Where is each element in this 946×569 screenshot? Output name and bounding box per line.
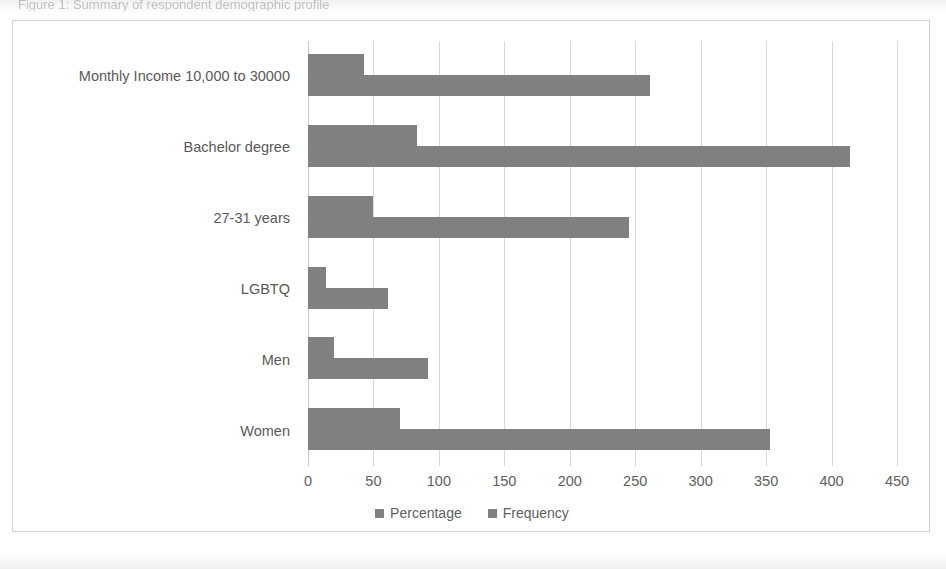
x-axis-tick: 50	[365, 473, 381, 489]
chart-frame: WomenMenLGBTQ27-31 yearsBachelor degreeM…	[12, 20, 930, 532]
y-axis-label: 27-31 years	[13, 183, 298, 254]
bar-percentage[interactable]	[308, 408, 400, 429]
y-axis-label: Women	[13, 395, 298, 466]
chart-legend: PercentageFrequency	[13, 505, 931, 521]
bar-frequency[interactable]	[308, 288, 388, 309]
bar-group	[308, 254, 897, 325]
bar-group	[308, 41, 897, 112]
x-axis-tick: 400	[819, 473, 843, 489]
bar-group	[308, 395, 897, 466]
gridline	[897, 41, 898, 466]
x-axis-tick-labels: 050100150200250300350400450	[308, 473, 897, 497]
x-axis-tick: 250	[623, 473, 647, 489]
bar-percentage[interactable]	[308, 196, 373, 217]
chart-page: Figure 1: Summary of respondent demograp…	[0, 0, 946, 569]
bar-group	[308, 112, 897, 183]
y-axis-labels: WomenMenLGBTQ27-31 yearsBachelor degreeM…	[13, 41, 308, 466]
bar-percentage[interactable]	[308, 337, 334, 358]
bar-frequency[interactable]	[308, 429, 770, 450]
y-axis-label-text: Women	[240, 423, 298, 439]
x-axis-tick: 100	[427, 473, 451, 489]
y-axis-label-text: Men	[262, 352, 298, 368]
y-axis-label-text: Bachelor degree	[184, 139, 298, 155]
x-axis-tick: 200	[558, 473, 582, 489]
y-axis-label-text: 27-31 years	[213, 210, 298, 226]
scan-artifact-bottom	[0, 553, 946, 569]
legend-item[interactable]: Percentage	[375, 505, 462, 521]
y-axis-label-text: Monthly Income 10,000 to 30000	[79, 68, 298, 84]
plot-area	[308, 41, 897, 466]
bar-group	[308, 183, 897, 254]
bar-frequency[interactable]	[308, 146, 850, 167]
bar-percentage[interactable]	[308, 125, 417, 146]
bar-group	[308, 324, 897, 395]
y-axis-label: Monthly Income 10,000 to 30000	[13, 41, 298, 112]
x-axis-tick: 350	[754, 473, 778, 489]
x-axis-tick: 450	[885, 473, 909, 489]
x-axis-tick: 150	[492, 473, 516, 489]
cropped-figure-title: Figure 1: Summary of respondent demograp…	[18, 0, 718, 11]
y-axis-label: LGBTQ	[13, 254, 298, 325]
legend-label: Percentage	[390, 505, 462, 521]
y-axis-label: Men	[13, 324, 298, 395]
bar-frequency[interactable]	[308, 75, 650, 96]
bar-percentage[interactable]	[308, 267, 326, 288]
y-axis-label-text: LGBTQ	[241, 281, 298, 297]
legend-swatch-icon	[488, 509, 497, 518]
bar-frequency[interactable]	[308, 217, 629, 238]
bar-percentage[interactable]	[308, 54, 364, 75]
legend-label: Frequency	[503, 505, 569, 521]
bar-frequency[interactable]	[308, 358, 428, 379]
y-axis-label: Bachelor degree	[13, 112, 298, 183]
x-axis-tick: 300	[689, 473, 713, 489]
legend-item[interactable]: Frequency	[488, 505, 569, 521]
legend-swatch-icon	[375, 509, 384, 518]
x-axis-tick: 0	[304, 473, 312, 489]
